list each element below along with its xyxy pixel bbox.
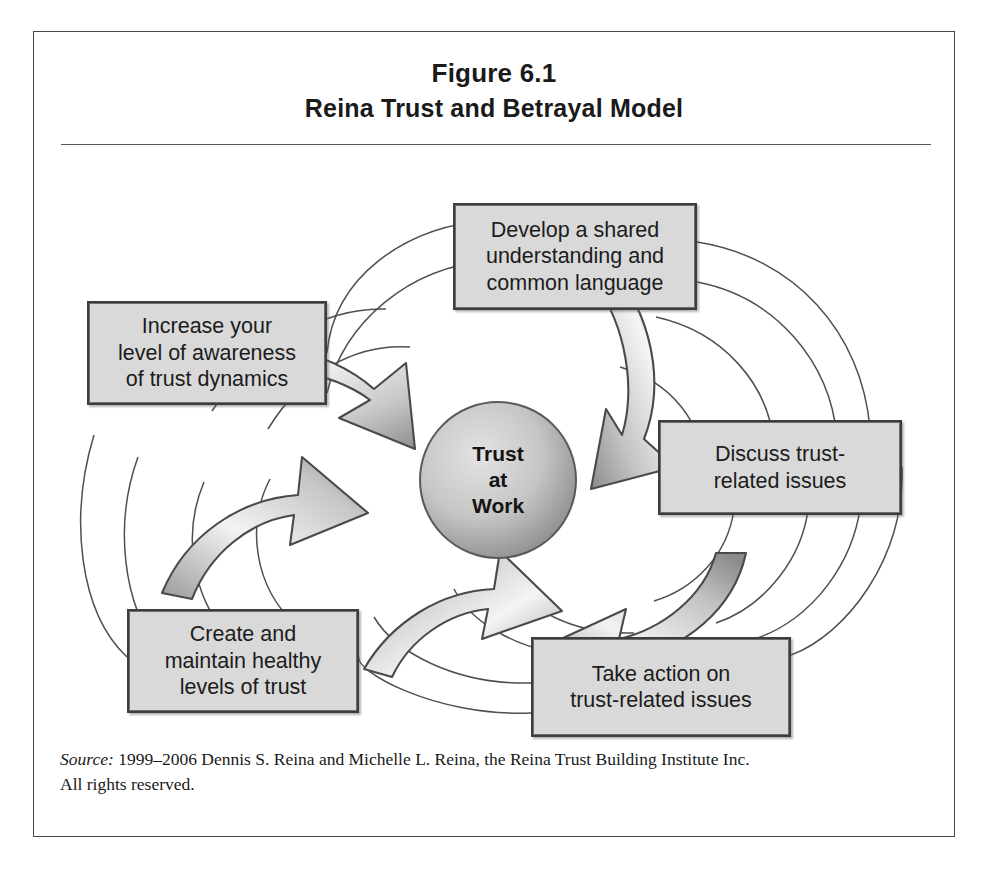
box-take-action-on-trust-related-issues[interactable]: Take action on trust-related issues (531, 637, 791, 737)
figure-title: Reina Trust and Betrayal Model (34, 90, 954, 126)
box-inner-border: Take action on trust-related issues (533, 639, 789, 735)
box-create-maintain-healthy-levels-of-trust[interactable]: Create and maintain healthy levels of tr… (127, 609, 359, 713)
box-label: Increase your level of awareness of trus… (112, 313, 302, 393)
source-line-2: All rights reserved. (60, 772, 932, 797)
source-line-1: Source: 1999–2006 Dennis S. Reina and Mi… (60, 747, 932, 772)
title-divider (61, 144, 931, 145)
box-inner-border: Discuss trust- related issues (660, 422, 900, 513)
box-label: Take action on trust-related issues (564, 661, 758, 714)
box-inner-border: Develop a shared understanding and commo… (455, 205, 695, 308)
box-label: Develop a shared understanding and commo… (480, 217, 670, 297)
source-label: Source: (60, 749, 114, 769)
figure-title-block: Figure 6.1 Reina Trust and Betrayal Mode… (34, 56, 954, 126)
source-note: Source: 1999–2006 Dennis S. Reina and Mi… (60, 747, 932, 797)
trust-model-diagram: Trust at Work Develop a shared understan… (34, 157, 956, 732)
box-inner-border: Increase your level of awareness of trus… (89, 303, 325, 403)
center-circle (420, 402, 576, 558)
figure-number: Figure 6.1 (34, 56, 954, 90)
box-label: Discuss trust- related issues (708, 441, 853, 494)
figure-frame: Figure 6.1 Reina Trust and Betrayal Mode… (33, 31, 955, 837)
source-credit: 1999–2006 Dennis S. Reina and Michelle L… (114, 749, 750, 769)
box-inner-border: Create and maintain healthy levels of tr… (129, 611, 357, 711)
box-increase-level-of-awareness[interactable]: Increase your level of awareness of trus… (87, 301, 327, 405)
box-label: Create and maintain healthy levels of tr… (159, 621, 328, 701)
box-develop-shared-understanding[interactable]: Develop a shared understanding and commo… (453, 203, 697, 310)
box-discuss-trust-related-issues[interactable]: Discuss trust- related issues (658, 420, 902, 515)
